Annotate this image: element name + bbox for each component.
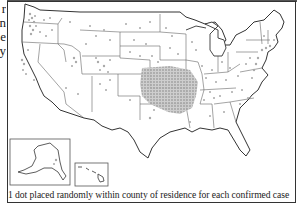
hawaii-inset: [75, 163, 108, 186]
us-dot-density-map: [0, 0, 302, 211]
alaska-inset: [10, 139, 70, 185]
map-caption: 1 dot placed randomly within county of r…: [8, 189, 294, 200]
